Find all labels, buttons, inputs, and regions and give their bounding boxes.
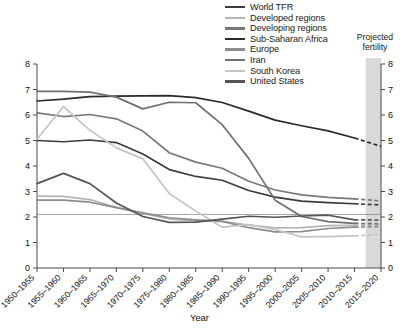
- y-axis-tick-label-right: 6: [388, 110, 393, 120]
- y-axis-tick-label-right: 1: [388, 238, 393, 248]
- legend-item-label: Sub-Saharan Africa: [250, 34, 328, 45]
- legend-swatch-line-icon: [225, 70, 245, 72]
- y-axis-tick-label-right: 4: [388, 161, 393, 171]
- y-axis-tick-label-right: 3: [388, 187, 393, 197]
- legend-item-label: South Korea: [250, 66, 300, 77]
- y-axis-tick-label-left: 2: [25, 212, 30, 222]
- legend-swatch-line-icon: [225, 38, 245, 40]
- y-axis-tick-label-left: 5: [25, 136, 30, 146]
- legend-item-label: Developing regions: [250, 23, 327, 34]
- series-lines: [37, 91, 381, 237]
- legend-swatch-line-icon: [225, 27, 245, 29]
- legend-item: Iran: [225, 55, 375, 66]
- y-axis-tick-label-left: 4: [25, 161, 30, 171]
- projection-band: [366, 58, 381, 268]
- fertility-rate-chart: 012345678012345678 1950–19551955–1960196…: [0, 0, 407, 329]
- projected-fertility-line2: fertility: [344, 43, 406, 53]
- y-axis-tick-label-left: 8: [25, 59, 30, 69]
- projected-fertility-label: Projected fertility: [344, 33, 406, 52]
- y-axis-tick-label-left: 6: [25, 110, 30, 120]
- legend-item-label: Developed regions: [250, 13, 325, 24]
- y-axis-tick-label-left: 0: [25, 263, 30, 273]
- legend-item: World TFR: [225, 2, 375, 13]
- y-axis-tick-label-right: 0: [388, 263, 393, 273]
- y-axis-tick-label-left: 3: [25, 187, 30, 197]
- legend-item: United States: [225, 76, 375, 87]
- y-axis-tick-label-left: 1: [25, 238, 30, 248]
- y-axis-tick-label-right: 8: [388, 59, 393, 69]
- series-line-projected: [355, 227, 381, 228]
- legend-item-label: Europe: [250, 44, 279, 55]
- series-line-projected: [355, 225, 381, 226]
- legend-swatch-line-icon: [225, 48, 245, 50]
- series-line-solid: [37, 91, 355, 223]
- y-axis-tick-label-right: 7: [388, 85, 393, 95]
- series-line-solid: [37, 173, 355, 222]
- legend-item: Developed regions: [225, 13, 375, 24]
- legend-item: South Korea: [225, 66, 375, 77]
- series-line-projected: [355, 223, 381, 224]
- y-axis-tick-label-left: 7: [25, 85, 30, 95]
- legend-swatch-line-icon: [225, 6, 245, 8]
- legend-swatch-line-icon: [225, 17, 245, 19]
- y-axis-tick-label-right: 2: [388, 212, 393, 222]
- projection-shade: [366, 58, 381, 268]
- legend-item-label: World TFR: [250, 2, 293, 13]
- legend-item-label: United States: [250, 76, 304, 87]
- x-tick-labels: 1950–19551955–19601960–19651965–19701970…: [0, 272, 381, 310]
- x-axis-title: Year: [190, 312, 209, 323]
- legend-swatch-line-icon: [225, 80, 245, 82]
- legend-swatch-line-icon: [225, 59, 245, 61]
- y-axis-tick-label-right: 5: [388, 136, 393, 146]
- legend-item-label: Iran: [250, 55, 265, 66]
- series-line-solid: [37, 140, 355, 204]
